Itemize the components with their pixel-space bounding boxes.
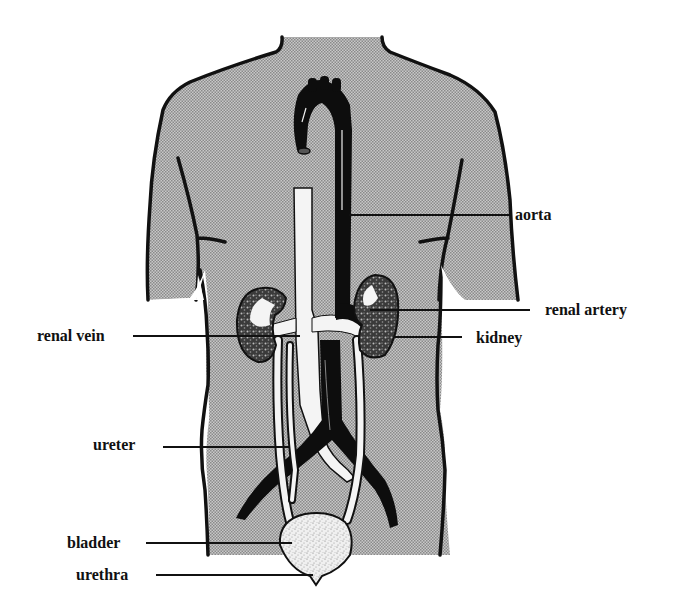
label-bladder: bladder: [67, 535, 120, 551]
label-ureter: ureter: [93, 437, 135, 453]
label-urethra: urethra: [76, 567, 128, 583]
label-renal-artery: renal artery: [545, 302, 627, 318]
label-renal-vein: renal vein: [37, 328, 105, 344]
label-kidney: kidney: [476, 330, 522, 346]
right-kidney: [354, 275, 398, 358]
label-aorta: aorta: [515, 207, 551, 223]
urinary-system-diagram: aorta renal artery kidney renal vein ure…: [0, 0, 675, 608]
